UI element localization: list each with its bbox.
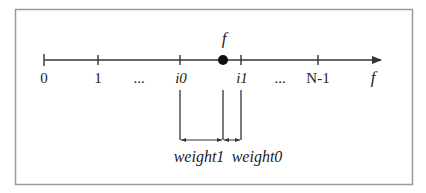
weight0-label: weight0 [232,149,283,165]
tick-label-i0: i0 [175,70,187,86]
weight1-label: weight1 [174,149,225,165]
ellipsis-left: ... [133,70,144,86]
sample-point-label: f [222,31,227,47]
tick-label-n-1: N-1 [306,70,329,86]
ellipsis-right: ... [274,70,285,86]
sample-point-marker [218,55,228,65]
axis-arrow-label: f [371,70,376,86]
interpolation-diagram: f 0 1 ... i0 i1 ... N-1 f weight1 weight… [0,0,426,193]
tick-label-0: 0 [40,70,48,86]
tick-label-i1: i1 [236,70,248,86]
tick-label-1: 1 [94,70,102,86]
weight-brackets [180,90,241,140]
